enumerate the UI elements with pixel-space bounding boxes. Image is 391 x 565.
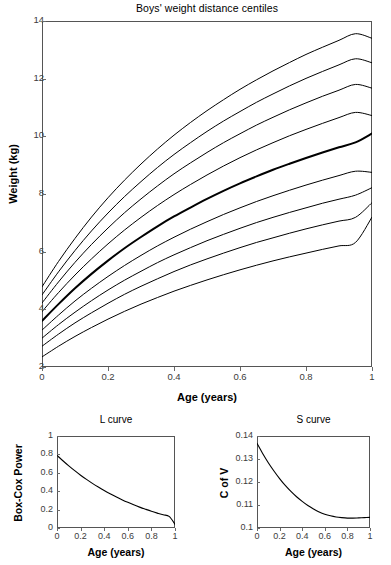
small-x-tick-mark [325, 528, 326, 531]
small-y-tick-label: 0.2 [0, 504, 53, 514]
main-x-tick-mark [306, 367, 307, 371]
main-y-tick-label: 8 [14, 187, 44, 198]
main-x-tick-label: 0.6 [220, 371, 260, 382]
main-y-tick-label: 4 [14, 302, 44, 313]
main-y-tick-label: 10 [14, 129, 44, 140]
small-x-tick-label: 0 [245, 531, 269, 541]
main-y-tick-label: 2 [14, 360, 44, 371]
small-x-tick-mark [57, 528, 58, 531]
main-y-tick-mark [42, 252, 46, 253]
small-x-tick-label: 0.6 [116, 531, 140, 541]
s-curve-x-axis-label: Age (years) [237, 546, 390, 558]
main-x-tick-mark [42, 367, 43, 371]
centile-curve [42, 217, 372, 357]
small-x-tick-label: 1 [358, 531, 382, 541]
main-x-tick-mark [372, 367, 373, 371]
small-y-tick-mark [57, 454, 60, 455]
small-x-tick-mark [151, 528, 152, 531]
main-y-tick-label: 6 [14, 245, 44, 256]
small-y-tick-mark [57, 436, 60, 437]
small-x-tick-mark [302, 528, 303, 531]
small-x-tick-label: 0.4 [290, 531, 314, 541]
s-curve-panel: S curve C of V Age (years) 0.10.110.120.… [195, 412, 391, 565]
small-y-tick-mark [57, 491, 60, 492]
small-y-tick-label: 0.6 [0, 467, 53, 477]
l-curve-x-axis-label: Age (years) [37, 546, 195, 558]
small-y-tick-label: 0.13 [195, 453, 253, 463]
small-y-tick-mark [57, 473, 60, 474]
small-x-tick-mark [104, 528, 105, 531]
small-x-tick-mark [81, 528, 82, 531]
centile-curve [42, 171, 372, 330]
small-x-tick-label: 0 [45, 531, 69, 541]
l-curve-line [57, 436, 175, 528]
centile-curve [57, 455, 175, 524]
main-y-tick-mark [42, 21, 46, 22]
small-x-tick-label: 0.8 [335, 531, 359, 541]
main-x-tick-label: 0.2 [88, 371, 128, 382]
small-x-tick-mark [370, 528, 371, 531]
main-chart-title: Boys' weight distance centiles [42, 2, 372, 14]
small-y-tick-label: 1 [0, 430, 53, 440]
small-y-tick-label: 0.12 [195, 476, 253, 486]
small-y-tick-mark [257, 482, 260, 483]
main-x-tick-mark [174, 367, 175, 371]
main-y-tick-mark [42, 194, 46, 195]
small-y-tick-mark [57, 510, 60, 511]
centile-curve [257, 443, 370, 518]
small-x-tick-mark [175, 528, 176, 531]
main-y-tick-mark [42, 309, 46, 310]
main-x-axis-label: Age (years) [42, 391, 372, 403]
small-x-tick-label: 0.4 [92, 531, 116, 541]
small-x-tick-label: 0.8 [139, 531, 163, 541]
small-x-tick-mark [280, 528, 281, 531]
main-x-tick-mark [240, 367, 241, 371]
small-x-tick-label: 0.2 [69, 531, 93, 541]
main-y-tick-label: 12 [14, 72, 44, 83]
main-chart-panel: Boys' weight distance centiles Weight (k… [0, 0, 391, 410]
small-y-tick-label: 0.11 [195, 499, 253, 509]
main-x-tick-label: 0 [22, 371, 62, 382]
s-curve-line [257, 436, 370, 528]
main-x-tick-mark [108, 367, 109, 371]
small-y-tick-mark [257, 505, 260, 506]
main-x-tick-label: 0.8 [286, 371, 326, 382]
main-y-tick-mark [42, 79, 46, 80]
small-y-tick-mark [257, 459, 260, 460]
small-x-tick-label: 0.6 [313, 531, 337, 541]
small-x-tick-label: 0.2 [268, 531, 292, 541]
centile-curve [42, 112, 372, 311]
small-x-tick-mark [257, 528, 258, 531]
main-x-tick-label: 0.4 [154, 371, 194, 382]
main-y-tick-label: 14 [14, 14, 44, 25]
small-y-tick-label: 0.14 [195, 430, 253, 440]
small-y-tick-mark [257, 436, 260, 437]
main-centile-curves [42, 21, 372, 367]
l-curve-title: L curve [57, 414, 175, 425]
main-x-tick-label: 1 [352, 371, 391, 382]
s-curve-title: S curve [257, 414, 370, 425]
small-x-tick-mark [347, 528, 348, 531]
small-y-tick-label: 0.4 [0, 485, 53, 495]
centile-curve [42, 188, 372, 339]
small-y-tick-label: 0.8 [0, 448, 53, 458]
centile-curve [42, 133, 372, 320]
main-y-tick-mark [42, 136, 46, 137]
small-x-tick-label: 1 [163, 531, 187, 541]
figure-root: Boys' weight distance centiles Weight (k… [0, 0, 391, 565]
l-curve-panel: L curve Box-Cox Power Age (years) 00.20.… [0, 412, 196, 565]
small-x-tick-mark [128, 528, 129, 531]
centile-curve [42, 84, 372, 303]
